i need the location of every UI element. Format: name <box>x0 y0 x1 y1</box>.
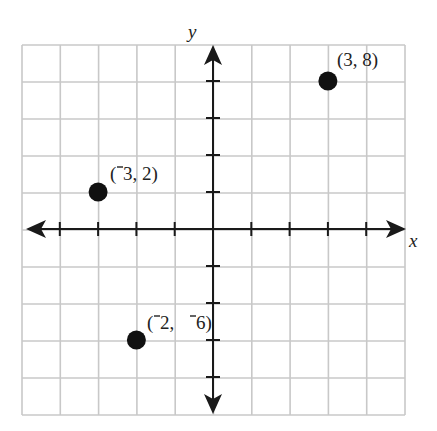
x-axis-label: x <box>408 230 418 251</box>
point-label-neg2-neg6: ( 2, 6) <box>147 312 212 334</box>
data-point <box>89 183 108 202</box>
point-label-3-8: (3, 8) <box>337 49 378 71</box>
point-label-neg3-2: ( 3, 2) <box>110 163 158 185</box>
coordinate-plane: x y (3, 8) ( 3, 2) ( 2, 6) <box>0 0 437 431</box>
svg-text:(: ( <box>147 312 153 334</box>
svg-text:6): 6) <box>196 312 212 334</box>
svg-text:(: ( <box>110 163 116 185</box>
data-point <box>127 331 146 350</box>
y-axis-label: y <box>186 21 197 42</box>
svg-text:2,: 2, <box>160 312 174 333</box>
axes <box>26 45 406 414</box>
svg-text:3, 2): 3, 2) <box>123 163 158 185</box>
data-point <box>318 72 337 91</box>
